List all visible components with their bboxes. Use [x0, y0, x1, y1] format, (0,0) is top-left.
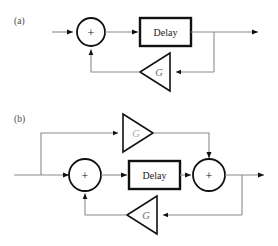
panel-b-gain-bottom-label: G — [142, 210, 150, 221]
figure-container: (a) + Delay G (b) — [0, 0, 278, 246]
panel-a-gain-to-junction-wire — [91, 50, 140, 73]
panel-b-label: (b) — [14, 114, 25, 125]
panel-a-delay-label: Delay — [154, 27, 178, 38]
panel-b-sum-sign-right: + — [206, 169, 213, 183]
panel-b-sum-sign-left: + — [82, 169, 89, 183]
panel-a-label: (a) — [14, 16, 25, 27]
panel-b-delay-label: Delay — [143, 170, 167, 181]
panel-b: (b) G + Delay + — [14, 114, 264, 234]
panel-b-gain-top-label: G — [132, 128, 140, 139]
panel-a-gain-label: G — [155, 67, 163, 78]
panel-b-gain-to-junction-wire — [85, 194, 127, 216]
panel-a-sum-sign: + — [88, 26, 95, 40]
panel-b-gain-top-to-right-junction-wire — [153, 133, 209, 158]
panel-a: (a) + Delay G — [14, 16, 258, 91]
block-diagram-svg: (a) + Delay G (b) — [0, 0, 278, 246]
